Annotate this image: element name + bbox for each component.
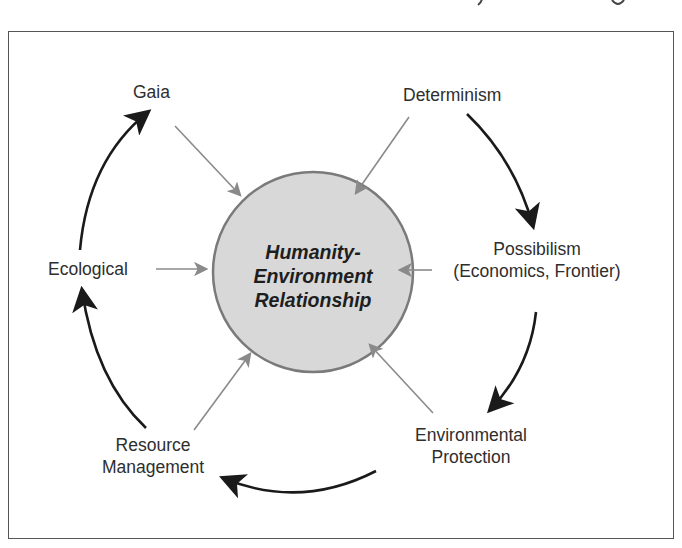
center-label: Humanity- Environment Relationship <box>213 240 413 312</box>
node-resource-line2: Management <box>88 456 218 478</box>
node-possibilism-line2: (Economics, Frontier) <box>434 260 640 282</box>
center-label-line2: Environment <box>213 264 413 288</box>
arrow-resource-to-ecological <box>82 290 146 428</box>
node-envprotection-line2: Protection <box>396 446 546 468</box>
node-possibilism-line1: Possibilism <box>434 238 640 260</box>
node-gaia: Gaia <box>133 81 170 103</box>
arrow-possibilism-to-envprotection <box>490 312 536 410</box>
node-ecological-label: Ecological <box>48 259 128 279</box>
center-label-line3: Relationship <box>213 288 413 312</box>
node-determinism-label: Determinism <box>403 85 501 105</box>
arrow-envprotection-to-resource <box>223 471 376 492</box>
node-envprotection-line1: Environmental <box>396 424 546 446</box>
node-environmental-protection: Environmental Protection <box>396 424 546 468</box>
arrow-ecological-to-gaia <box>80 112 148 250</box>
center-label-line1: Humanity- <box>213 240 413 264</box>
arrow-envprotection-to-center <box>370 345 433 413</box>
node-resource-management: Resource Management <box>88 434 218 478</box>
node-ecological: Ecological <box>48 258 128 280</box>
arrow-gaia-to-center <box>175 126 240 195</box>
node-resource-line1: Resource <box>88 434 218 456</box>
node-possibilism: Possibilism (Economics, Frontier) <box>434 238 640 282</box>
arrow-determinism-to-center <box>356 117 409 193</box>
arrow-determinism-to-possibilism <box>467 114 533 226</box>
node-gaia-label: Gaia <box>133 82 170 102</box>
node-determinism: Determinism <box>403 84 501 106</box>
arrow-resource-to-center <box>194 354 250 430</box>
